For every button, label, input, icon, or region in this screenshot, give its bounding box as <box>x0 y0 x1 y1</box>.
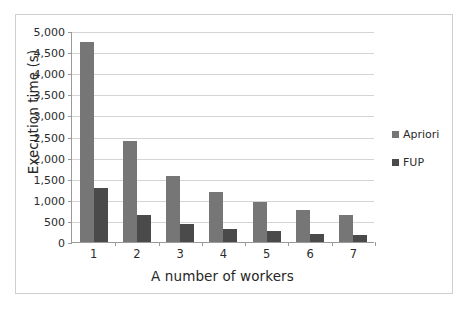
x-tick-label: 4 <box>220 247 227 261</box>
legend-item-label: FUP <box>403 156 424 169</box>
y-tick-label: 0 <box>58 237 65 250</box>
x-tick-mark <box>115 242 116 246</box>
square-swatch-icon <box>392 131 399 138</box>
x-tick-label: 5 <box>263 247 270 261</box>
legend-item-label: Apriori <box>403 128 439 141</box>
y-tick-label: 1,500 <box>34 173 66 186</box>
x-tick-mark <box>288 242 289 246</box>
y-tick-label: 4,000 <box>34 68 66 81</box>
bar-apriori-1 <box>80 42 94 242</box>
bar-fup-7 <box>353 235 367 242</box>
plot-area: 05001,0001,5002,0002,5003,0003,5004,0004… <box>71 32 374 243</box>
bar-group: 6 <box>288 32 331 242</box>
y-tick-label: 3,500 <box>34 89 66 102</box>
legend-item-apriori: Apriori <box>392 125 439 143</box>
y-tick-label: 2,500 <box>34 131 66 144</box>
bar-fup-6 <box>310 234 324 242</box>
legend-item-fup: FUP <box>392 153 439 171</box>
bar-group: 4 <box>202 32 245 242</box>
bar-apriori-6 <box>296 210 310 242</box>
y-tick-label: 4,500 <box>34 47 66 60</box>
bar-fup-1 <box>94 188 108 242</box>
bar-apriori-5 <box>253 202 267 242</box>
y-tick-label: 500 <box>44 215 65 228</box>
x-tick-label: 6 <box>306 247 313 261</box>
bar-fup-2 <box>137 215 151 242</box>
bar-apriori-2 <box>123 141 137 242</box>
x-tick-label: 1 <box>90 247 97 261</box>
bar-group: 2 <box>115 32 158 242</box>
bar-apriori-7 <box>339 215 353 242</box>
x-tick-mark <box>375 242 376 246</box>
y-tick-label: 2,000 <box>34 152 66 165</box>
x-tick-label: 3 <box>177 247 184 261</box>
x-tick-mark <box>159 242 160 246</box>
x-tick-label: 7 <box>350 247 357 261</box>
bar-group: 3 <box>159 32 202 242</box>
y-tick-label: 5,000 <box>34 26 66 39</box>
bar-group: 7 <box>332 32 375 242</box>
bar-apriori-4 <box>209 192 223 242</box>
y-tick-label: 3,000 <box>34 110 66 123</box>
x-axis-title: A number of workers <box>71 268 374 284</box>
chart-legend: AprioriFUP <box>392 125 439 181</box>
bar-group: 1 <box>72 32 115 242</box>
x-tick-mark <box>332 242 333 246</box>
bar-fup-4 <box>223 229 237 242</box>
y-tick-mark <box>68 243 72 244</box>
x-tick-mark <box>202 242 203 246</box>
square-swatch-icon <box>392 159 399 166</box>
bar-apriori-3 <box>166 176 180 242</box>
chart-figure: Execution time (s) 05001,0001,5002,0002,… <box>0 0 467 311</box>
bar-fup-5 <box>267 231 281 242</box>
x-tick-mark <box>245 242 246 246</box>
y-tick-label: 1,000 <box>34 194 66 207</box>
bar-fup-3 <box>180 224 194 242</box>
x-tick-label: 2 <box>133 247 140 261</box>
bar-group: 5 <box>245 32 288 242</box>
